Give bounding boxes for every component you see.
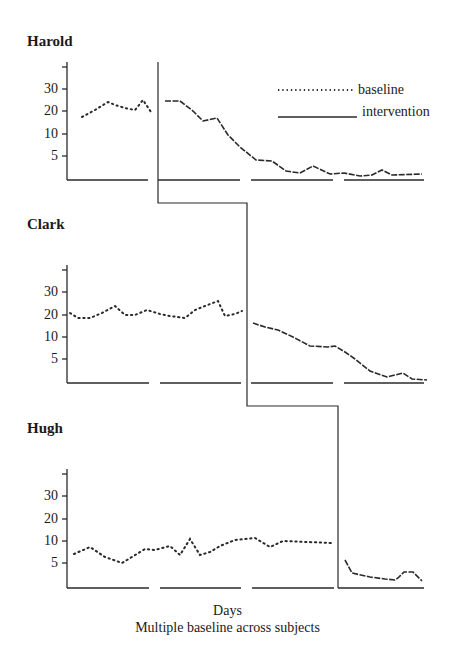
- intervention-series: [165, 101, 422, 176]
- panel-harold: [62, 62, 424, 180]
- phase-change-line: [158, 62, 338, 588]
- baseline-series: [82, 100, 151, 117]
- baseline-series: [70, 301, 242, 318]
- intervention-series: [253, 323, 427, 380]
- baseline-series: [74, 538, 332, 563]
- panel-hugh: [62, 469, 424, 588]
- panel-clark: [62, 265, 427, 383]
- intervention-series: [345, 560, 422, 581]
- legend: [278, 90, 357, 117]
- multiple-baseline-chart: [0, 0, 455, 657]
